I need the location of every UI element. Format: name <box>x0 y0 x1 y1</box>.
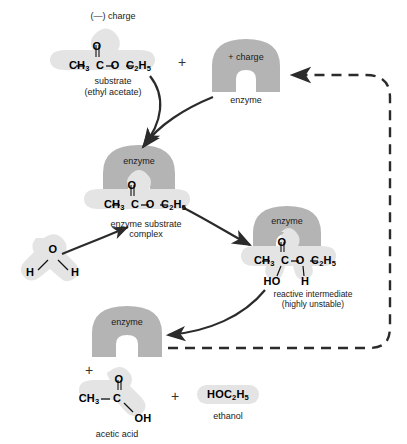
plus-sign-products: + <box>85 362 93 378</box>
intermediate-hydrogen: H <box>301 275 309 288</box>
intermediate-caption-line2: (highly unstable) <box>282 300 344 310</box>
acetic-acid-carbon: C <box>113 392 121 405</box>
arrow-enzyme-to-complex <box>144 97 213 146</box>
complex-enzyme-label: enzyme <box>123 156 155 166</box>
intermediate-formula: CH3 C O C2H5 <box>254 254 336 269</box>
arrow-intermediate-to-products <box>168 290 265 335</box>
free-enzyme-shape <box>212 39 280 92</box>
complex-caption-line2: complex <box>129 229 163 239</box>
water-hydrogen-right: H <box>71 266 79 279</box>
acetic-acid-top-oxygen: O <box>115 373 124 386</box>
ethanol-name: ethanol <box>213 411 243 421</box>
acetic-acid-name: acetic acid <box>96 429 139 439</box>
complex-top-oxygen: O <box>128 179 137 192</box>
substrate-subname: (ethyl acetate) <box>84 87 141 97</box>
acetic-acid-methyl: CH3 <box>79 392 100 407</box>
arrow-water-to-complex <box>62 227 128 254</box>
substrate-formula: CH3 C O C2H5 <box>69 59 151 74</box>
plus-sign-between-products: + <box>171 388 179 404</box>
intermediate-top-oxygen: O <box>278 236 287 249</box>
complex-formula: CH3 C O C2H5 <box>104 198 186 213</box>
diagram-artwork <box>0 0 407 444</box>
arrow-complex-to-intermediate <box>182 207 250 245</box>
negative-charge-label: (—) charge <box>90 11 135 21</box>
regenerated-enzyme-shape <box>92 306 162 357</box>
acetic-acid-hydroxyl: OH <box>135 412 152 425</box>
substrate-top-oxygen: O <box>93 40 102 53</box>
plus-sign-top: + <box>178 54 186 70</box>
positive-charge-label: + charge <box>228 52 263 62</box>
ethanol-formula: HOC2H5 <box>207 388 249 403</box>
enzyme-catalysis-diagram: (—) charge O CH3 C O C2H5 substrate (eth… <box>0 0 407 444</box>
water-hydrogen-left: H <box>26 266 34 279</box>
water-oxygen: O <box>49 243 58 256</box>
complex-caption-line1: enzyme substrate <box>110 219 181 229</box>
free-enzyme-label: enzyme <box>230 95 262 105</box>
intermediate-enzyme-label: enzyme <box>271 216 303 226</box>
intermediate-hydroxyl: HO <box>264 275 281 288</box>
substrate-name: substrate <box>94 76 131 86</box>
regenerated-enzyme-label: enzyme <box>111 317 143 327</box>
